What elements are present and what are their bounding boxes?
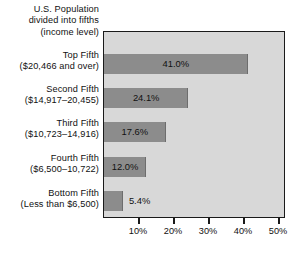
category-name: Top Fifth xyxy=(20,50,99,61)
plot-inner: 41.0% 24.1% 17.6% 12.0% 5.4% xyxy=(104,32,284,217)
bar-value-bottom-fifth: 5.4% xyxy=(129,194,150,208)
category-label-bottom-fifth: Bottom Fifth (Less than $6,500) xyxy=(21,188,99,211)
chart-title-line-2: divided into fifths xyxy=(29,15,99,26)
category-name: Fourth Fifth xyxy=(30,153,99,164)
x-tick-mark xyxy=(278,218,280,224)
x-tick-mark xyxy=(138,218,140,224)
category-name: Bottom Fifth xyxy=(21,188,99,199)
category-range: ($20,466 and over) xyxy=(20,61,99,72)
x-tick-mark xyxy=(208,218,210,224)
bar-value-third-fifth: 17.6% xyxy=(122,125,149,139)
x-tick-label: 10% xyxy=(129,226,147,236)
x-tick-mark xyxy=(173,218,175,224)
x-axis: 10%20%30%40%50% xyxy=(103,218,285,259)
category-range: ($14,917–20,455) xyxy=(25,95,99,106)
x-tick-label: 50% xyxy=(269,226,287,236)
chart-title-line-1: U.S. Population xyxy=(29,4,99,15)
category-range: (Less than $6,500) xyxy=(21,199,99,210)
category-name: Third Fifth xyxy=(25,118,99,129)
x-tick-label: 30% xyxy=(199,226,217,236)
bar-bottom-fifth xyxy=(104,191,123,211)
category-label-second-fifth: Second Fifth ($14,917–20,455) xyxy=(25,84,99,107)
chart-title: U.S. Population divided into fifths (inc… xyxy=(29,4,99,38)
plot-area: 41.0% 24.1% 17.6% 12.0% 5.4% xyxy=(103,31,285,218)
category-label-third-fifth: Third Fifth ($10,723–14,916) xyxy=(25,118,99,141)
bar-value-fourth-fifth: 12.0% xyxy=(112,160,139,174)
x-tick-label: 20% xyxy=(164,226,182,236)
category-label-column: U.S. Population divided into fifths (inc… xyxy=(0,0,99,259)
bar-value-second-fifth: 24.1% xyxy=(133,91,160,105)
x-tick-mark xyxy=(243,218,245,224)
category-label-top-fifth: Top Fifth ($20,466 and over) xyxy=(20,50,99,73)
chart-title-line-3: (income level) xyxy=(29,27,99,38)
bar-value-top-fifth: 41.0% xyxy=(162,57,189,71)
category-range: ($10,723–14,916) xyxy=(25,129,99,140)
x-tick-label: 40% xyxy=(234,226,252,236)
category-name: Second Fifth xyxy=(25,84,99,95)
category-label-fourth-fifth: Fourth Fifth ($6,500–10,722) xyxy=(30,153,99,176)
category-range: ($6,500–10,722) xyxy=(30,164,99,175)
bar-chart: U.S. Population divided into fifths (inc… xyxy=(0,0,295,259)
